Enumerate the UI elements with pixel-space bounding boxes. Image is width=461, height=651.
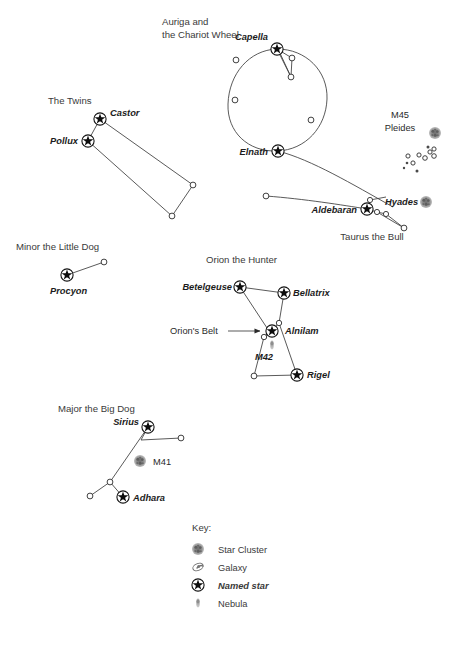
named-star-icon xyxy=(278,287,290,299)
named-star-adhara: Adhara xyxy=(117,491,165,503)
star-cluster-icon xyxy=(420,196,432,208)
m45-label-line1: M45 xyxy=(391,110,409,120)
star-cluster-icon xyxy=(134,455,146,467)
auriga-lines xyxy=(228,49,393,207)
star-chart-figure: Auriga and the Chariot Wheel Capella xyxy=(0,0,461,651)
named-star-icon xyxy=(272,145,284,157)
constellation-canis-minor: Minor the Little Dog Procyon xyxy=(16,241,107,296)
auriga-plain-stars xyxy=(232,55,314,123)
key-label-nebula: Nebula xyxy=(218,599,248,609)
key-label-galaxy: Galaxy xyxy=(218,563,247,573)
constellation-title-canis-minor: Minor the Little Dog xyxy=(16,241,99,252)
orion-belt-annotation: Orion's Belt xyxy=(170,326,260,336)
named-star-icon xyxy=(61,269,73,281)
constellation-title-taurus: Taurus the Bull xyxy=(340,231,403,242)
named-star-sirius: Sirius xyxy=(113,417,154,433)
orion-belt-label: Orion's Belt xyxy=(170,326,218,336)
named-star-icon xyxy=(94,113,106,125)
key-label-star-cluster: Star Cluster xyxy=(218,545,267,555)
key-title: Key: xyxy=(192,522,211,533)
named-star-capella: Capella xyxy=(235,32,283,55)
named-star-bellatrix: Bellatrix xyxy=(278,287,331,299)
constellation-title-auriga-line2: the Chariot Wheel xyxy=(162,29,239,40)
named-star-icon xyxy=(234,281,246,293)
named-star-elnath: Elnath xyxy=(240,145,285,157)
named-star-alnilam: Alnilam xyxy=(266,325,319,337)
deep-sky-m41: M41 xyxy=(134,455,171,467)
constellation-title-gemini: The Twins xyxy=(48,95,92,106)
named-star-betelgeuse: Betelgeuse xyxy=(182,281,246,293)
gemini-lines xyxy=(88,119,193,216)
named-star-pollux: Pollux xyxy=(50,135,94,147)
star-label-bellatrix: Bellatrix xyxy=(293,288,331,298)
constellation-title-orion: Orion the Hunter xyxy=(206,254,278,265)
star-label-aldebaran: Aldebaran xyxy=(311,205,358,215)
hyades-label: Hyades xyxy=(385,197,418,207)
deep-sky-hyades: Hyades xyxy=(385,196,432,208)
constellation-title-canis-major: Major the Big Dog xyxy=(58,403,135,414)
named-star-castor: Castor xyxy=(94,108,141,125)
star-label-elnath: Elnath xyxy=(240,147,269,157)
plain-star xyxy=(101,259,107,265)
star-label-procyon: Procyon xyxy=(50,286,88,296)
key-item-nebula: Nebula xyxy=(196,599,248,609)
nebula-icon xyxy=(196,599,200,608)
m42-label: M42 xyxy=(255,352,274,362)
constellation-orion: Orion the Hunter Orion's Belt xyxy=(170,254,331,381)
star-chart-canvas: Auriga and the Chariot Wheel Capella xyxy=(0,0,461,651)
key-item-galaxy: Galaxy xyxy=(192,562,248,573)
star-label-betelgeuse: Betelgeuse xyxy=(182,282,232,292)
nebula-icon xyxy=(270,341,274,350)
star-label-adhara: Adhara xyxy=(132,493,165,503)
m41-label: M41 xyxy=(153,457,171,467)
named-star-icon xyxy=(361,203,373,215)
named-star-icon xyxy=(82,135,94,147)
star-label-rigel: Rigel xyxy=(307,370,330,380)
star-label-alnilam: Alnilam xyxy=(284,326,319,336)
constellation-auriga: Auriga and the Chariot Wheel Capella xyxy=(162,16,393,207)
deep-sky-m45-pleiades: M45 Pleides xyxy=(385,110,441,173)
named-star-icon xyxy=(117,491,129,503)
galaxy-icon xyxy=(192,562,205,572)
key-item-named-star: Named star xyxy=(192,579,270,591)
named-star-icon xyxy=(192,579,204,591)
star-label-pollux: Pollux xyxy=(50,136,79,146)
deep-sky-m42: M42 xyxy=(255,341,274,362)
named-star-aldebaran: Aldebaran xyxy=(311,203,374,215)
named-star-icon xyxy=(291,369,303,381)
named-star-icon xyxy=(142,421,154,433)
named-star-procyon: Procyon xyxy=(50,269,88,296)
star-label-capella: Capella xyxy=(235,32,268,42)
star-cluster-icon xyxy=(429,127,441,139)
named-star-rigel: Rigel xyxy=(291,369,330,381)
star-label-sirius: Sirius xyxy=(113,417,139,427)
constellation-canis-major: Major the Big Dog M41 Sirius xyxy=(58,403,184,503)
key-label-named-star: Named star xyxy=(218,581,270,591)
star-label-castor: Castor xyxy=(110,108,141,118)
named-star-icon xyxy=(271,43,283,55)
key-legend: Key: Star Cluster Galaxy Named star Nebu… xyxy=(192,522,270,609)
pleiades-star-dots xyxy=(403,146,437,173)
constellation-title-auriga: Auriga and xyxy=(162,16,208,27)
constellation-gemini: The Twins Castor Pollux xyxy=(48,95,196,219)
star-cluster-icon xyxy=(192,543,204,555)
key-item-star-cluster: Star Cluster xyxy=(192,543,267,555)
named-star-icon xyxy=(266,325,278,337)
m45-label-line2: Pleides xyxy=(385,123,416,133)
